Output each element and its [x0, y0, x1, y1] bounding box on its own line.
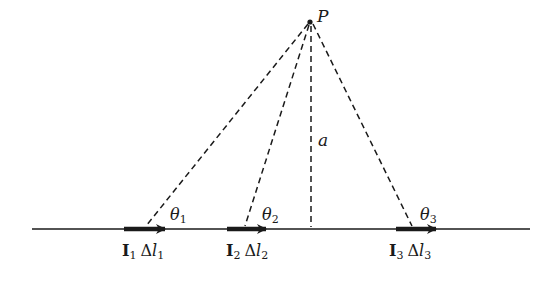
point-p-label: P — [316, 6, 329, 26]
dashed-line-to-element-3 — [313, 24, 412, 226]
dashed-lines — [146, 24, 412, 227]
angle-theta-3: θ3 — [420, 205, 437, 226]
element-label-2: I2Δl2 — [226, 241, 268, 262]
angle-theta-2: θ2 — [262, 205, 279, 226]
element-label-3: I3Δl3 — [389, 241, 431, 262]
dashed-line-to-element-1 — [146, 24, 308, 226]
current-elements-diagram: P a θ1 θ2 θ3 I1Δl1 I2Δl2 I3Δl3 — [0, 0, 549, 281]
element-label-1: I1Δl1 — [122, 241, 164, 262]
distance-a-label: a — [318, 130, 328, 150]
dashed-line-to-element-2 — [245, 25, 309, 226]
point-p-dot — [307, 19, 312, 24]
angle-theta-1: θ1 — [170, 205, 187, 226]
